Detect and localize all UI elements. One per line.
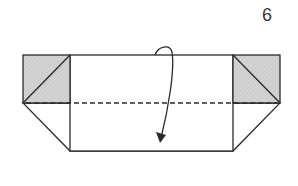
right-flap xyxy=(233,55,280,103)
origami-diagram xyxy=(0,0,298,186)
left-flap xyxy=(23,55,70,103)
